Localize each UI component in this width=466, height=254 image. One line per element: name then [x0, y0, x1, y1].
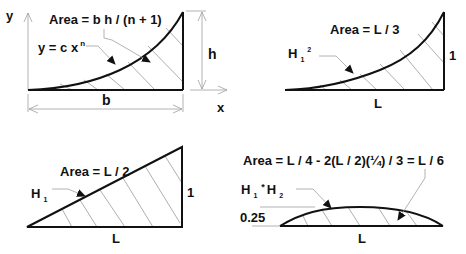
- x-axis-label: x: [217, 100, 225, 115]
- area-leader: [104, 38, 150, 62]
- parabolic-diagram: Area = L / 3 H12 1 L: [285, 12, 456, 111]
- height-label: h: [208, 46, 217, 62]
- shape-leader: [319, 56, 353, 73]
- y-axis-label: y: [6, 8, 14, 23]
- area-diagrams: y x h b Area = b h / (n + 1): [0, 0, 466, 254]
- shape-function-label: H1: [31, 186, 47, 203]
- product-diagram: Area = L / 4 - 2(L / 2)(¼) / 3 = L / 6 H…: [240, 153, 444, 246]
- area-formula: Area = L / 2: [60, 164, 130, 179]
- base-label: L: [358, 231, 366, 246]
- shape-leader: [52, 189, 85, 196]
- base-label: b: [102, 92, 111, 108]
- triangle-shape: [27, 147, 182, 227]
- area-formula: Area = b h / (n + 1): [49, 12, 162, 27]
- curve-label: y = c xn: [38, 39, 85, 55]
- height-label: 1: [187, 185, 194, 200]
- general-diagram: y x h b Area = b h / (n + 1): [6, 8, 227, 115]
- linear-diagram: Area = L / 2 H1 1 L: [27, 147, 194, 246]
- shape-function-label: H1*H2: [241, 182, 283, 199]
- shape-leader: [296, 189, 331, 208]
- curve-leader: [86, 46, 115, 64]
- base-label: L: [112, 231, 120, 246]
- area-formula: Area = L / 4 - 2(L / 2)(¼) / 3 = L / 6: [243, 153, 444, 168]
- area-formula: Area = L / 3: [330, 22, 400, 37]
- height-label: 1: [449, 48, 456, 63]
- shape-function-label: H12: [288, 46, 311, 63]
- height-label: 0.25: [240, 210, 265, 225]
- product-curve: [280, 207, 443, 226]
- base-label: L: [374, 96, 382, 111]
